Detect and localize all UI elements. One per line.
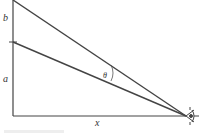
figure-caption-faint (4, 130, 64, 133)
label-x: x (94, 117, 100, 128)
eye-icon (186, 107, 199, 125)
label-b: b (3, 12, 8, 23)
angle-of-view-diagram: b a x θ (0, 0, 206, 138)
label-theta: θ (103, 71, 107, 80)
upper-sight-line (13, 0, 186, 116)
lower-sight-line (13, 42, 186, 116)
label-a: a (3, 73, 8, 84)
